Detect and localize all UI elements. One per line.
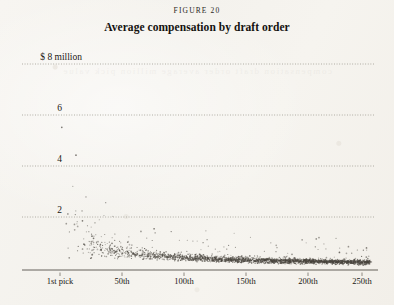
scatter-point (100, 244, 101, 245)
scatter-point (182, 258, 183, 259)
scatter-points-group (61, 127, 372, 266)
scatter-point (237, 262, 238, 263)
scatter-point (253, 261, 254, 262)
scatter-point (103, 252, 104, 253)
scatter-point (248, 259, 249, 260)
scatter-point (104, 256, 105, 257)
scatter-point (114, 240, 115, 241)
scatter-point (118, 253, 119, 254)
scatter-point (281, 262, 282, 263)
scatter-point (97, 249, 99, 251)
scatter-point (160, 254, 161, 255)
scatter-point (359, 260, 360, 261)
scatter-point (305, 263, 306, 264)
scatter-point (353, 260, 354, 261)
scatter-point (186, 257, 187, 258)
scatter-point (322, 261, 324, 263)
scatter-point (142, 253, 143, 254)
scatter-point (281, 259, 282, 260)
scatter-point (228, 257, 229, 258)
scatter-point (356, 260, 357, 261)
scatter-point (93, 249, 94, 250)
scatter-point (68, 247, 69, 248)
scatter-point (105, 244, 106, 245)
scatter-point (88, 252, 89, 253)
scatter-point (164, 256, 165, 257)
scatter-point (144, 248, 145, 249)
scatter-point (150, 258, 151, 259)
scatter-point (111, 255, 112, 256)
scatter-point (97, 241, 99, 243)
scatter-point (296, 261, 297, 262)
scatter-point (101, 236, 102, 237)
scatter-point (323, 259, 324, 260)
scatter-point (85, 196, 86, 197)
scatter-point (227, 262, 228, 263)
scatter-point (91, 257, 92, 258)
scatter-point (318, 237, 320, 239)
scatter-point (348, 264, 349, 265)
scatter-point (306, 259, 307, 260)
scatter-point (284, 259, 285, 260)
scatter-point (290, 259, 291, 260)
scatter-point (212, 259, 213, 260)
scatter-point (246, 258, 247, 259)
scatter-point (129, 254, 130, 255)
scatter-point (245, 259, 246, 260)
scatter-point (320, 262, 321, 263)
scatter-point (124, 255, 125, 256)
scatter-point (304, 263, 305, 264)
scatter-point (223, 246, 224, 247)
scatter-point (223, 259, 224, 260)
scatter-point (139, 250, 140, 251)
scatter-point (127, 241, 129, 243)
scatter-point (221, 256, 222, 257)
scatter-point (111, 252, 112, 253)
scatter-point (202, 242, 203, 243)
scatter-point (236, 260, 237, 261)
scatter-point (354, 262, 355, 263)
scatter-point (182, 256, 183, 257)
scatter-point (111, 243, 113, 245)
scatter-point (225, 259, 226, 260)
scatter-point (74, 224, 76, 226)
scatter-point (247, 260, 248, 261)
scatter-point (117, 258, 118, 259)
scatter-point (337, 263, 338, 264)
scatter-point (199, 254, 201, 256)
scatter-point (335, 238, 336, 239)
scatter-point (133, 252, 134, 253)
scatter-point (119, 256, 120, 257)
scatter-point (214, 257, 215, 258)
scatter-point (170, 256, 171, 257)
scatter-point (362, 261, 363, 262)
scatter-point (369, 260, 370, 261)
scatter-point (337, 259, 338, 260)
scatter-point (174, 260, 175, 261)
scatter-point (261, 262, 262, 263)
scatter-point (290, 261, 291, 262)
scatter-point (87, 248, 88, 249)
scatter-point (111, 253, 112, 254)
scatter-point (351, 253, 352, 254)
scatter-point (108, 253, 109, 254)
scatter-point (93, 244, 94, 245)
scatter-point (179, 240, 180, 241)
scatter-point (227, 258, 228, 259)
scatter-point (229, 262, 230, 263)
scatter-point (311, 260, 312, 261)
scatter-point (202, 256, 203, 257)
scatter-point (182, 255, 183, 256)
scatter-point (131, 258, 132, 259)
scatter-point (288, 262, 289, 263)
scatter-point (75, 214, 76, 215)
scatter-point (257, 256, 258, 257)
scatter-point (207, 258, 208, 259)
scatter-point (116, 247, 117, 248)
scatter-point (122, 253, 123, 254)
scatter-point (142, 254, 143, 255)
scatter-point (271, 259, 272, 260)
scatter-point (125, 253, 126, 254)
scatter-point (339, 261, 340, 262)
scatter-point (122, 249, 123, 250)
